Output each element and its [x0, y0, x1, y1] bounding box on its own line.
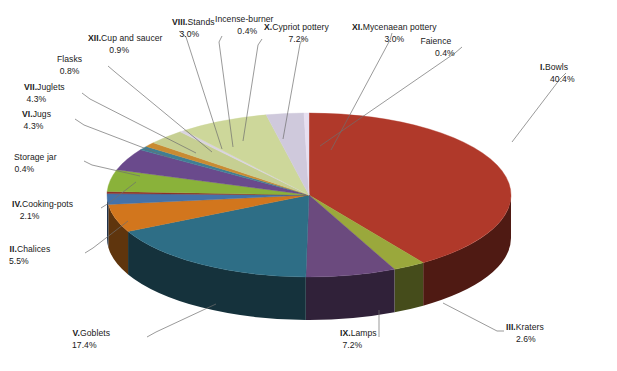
pie-chart-figure: I.Bowls 40.4% Faience 0.4% XI.Mycenaean … [0, 0, 617, 371]
label-juglets-percent: 4.3% [24, 94, 65, 106]
label-mycenaean-pottery: XI.Mycenaean pottery 3.0% [352, 22, 437, 45]
label-storage-jar-name: Storage jar [14, 152, 57, 162]
leader-cypriot [283, 38, 303, 139]
label-mycenaean-percent: 3.0% [352, 34, 437, 46]
label-lamps-name: Lamps [351, 328, 377, 338]
label-kraters-roman: III. [506, 322, 516, 332]
label-goblets-percent: 17.4% [72, 340, 111, 352]
label-chalices-name: Chalices [17, 244, 50, 254]
label-cooking-pots: IV.Cooking-pots 2.1% [12, 199, 73, 222]
label-jugs-percent: 4.3% [22, 121, 51, 133]
label-lamps-percent: 7.2% [340, 340, 377, 352]
label-cooking-pots-name: Cooking-pots [22, 199, 73, 209]
label-jugs: VI.Jugs 4.3% [22, 109, 51, 132]
label-incense-name: Incense-burner [215, 14, 274, 24]
leader-cooking-pots [101, 182, 136, 208]
leader-mycenaean [331, 33, 392, 150]
label-storage-jar-percent: 0.4% [14, 164, 57, 176]
label-mycenaean-roman: XI. [352, 22, 363, 32]
leader-jugs [75, 119, 170, 158]
label-cypriot-percent: 7.2% [264, 34, 329, 46]
label-chalices-roman: II. [10, 244, 17, 254]
label-stands-name: Stands [188, 17, 215, 27]
leader-goblets [147, 304, 216, 337]
label-cooking-pots-roman: IV. [12, 199, 22, 209]
leader-chalices [85, 221, 128, 253]
label-jugs-name: Jugs [33, 109, 51, 119]
leader-cup-saucer [179, 31, 222, 149]
label-faience-percent: 0.4% [417, 48, 455, 60]
label-cup-saucer-name: Cup and saucer [101, 33, 162, 43]
label-cup-saucer-percent: 0.9% [88, 45, 162, 57]
label-kraters-percent: 2.6% [506, 334, 544, 346]
label-goblets: V.Goblets 17.4% [72, 328, 111, 351]
label-cypriot-name: Cypriot pottery [272, 22, 329, 32]
label-juglets: VII.Juglets 4.3% [24, 82, 65, 105]
label-goblets-roman: V. [73, 328, 80, 338]
label-storage-jar: Storage jar 0.4% [14, 152, 57, 175]
label-bowls: I.Bowls 40.4% [540, 62, 575, 85]
label-bowls-percent: 40.4% [540, 74, 575, 86]
label-flasks-percent: 0.8% [57, 66, 82, 78]
label-cypriot-pottery: X.Cypriot pottery 7.2% [264, 22, 329, 45]
label-incense-burner: Incense-burner 0.4% [215, 14, 274, 37]
label-goblets-name: Goblets [80, 328, 110, 338]
label-flasks: Flasks 0.8% [57, 54, 82, 77]
label-juglets-name: Juglets [37, 82, 65, 92]
label-jugs-roman: VI. [22, 109, 33, 119]
label-juglets-roman: VII. [24, 82, 37, 92]
leader-kraters [443, 303, 504, 331]
leader-flasks [108, 66, 212, 152]
label-chalices: II.Chalices 5.5% [9, 244, 51, 267]
label-flasks-name: Flasks [57, 54, 82, 64]
label-mycenaean-name: Mycenaean pottery [363, 22, 437, 32]
label-cup-saucer-roman: XII. [88, 33, 101, 43]
leader-stands [219, 36, 233, 147]
label-stands-percent: 3.0% [172, 29, 215, 41]
label-kraters-name: Kraters [516, 322, 544, 332]
leader-incense [243, 39, 262, 141]
label-cooking-pots-percent: 2.1% [12, 211, 73, 223]
label-cup-and-saucer: XII.Cup and saucer 0.9% [88, 33, 162, 56]
label-chalices-percent: 5.5% [9, 256, 51, 268]
leader-juglets [82, 93, 196, 153]
label-incense-percent: 0.4% [215, 26, 274, 38]
label-lamps-roman: IX. [340, 328, 351, 338]
leader-storage-jar [84, 161, 140, 176]
label-stands: VIII.Stands 3.0% [172, 17, 215, 40]
label-bowls-name: Bowls [545, 62, 568, 72]
label-stands-roman: VIII. [172, 17, 188, 27]
label-kraters: III.Kraters 2.6% [506, 322, 544, 345]
label-lamps: IX.Lamps 7.2% [340, 328, 377, 351]
